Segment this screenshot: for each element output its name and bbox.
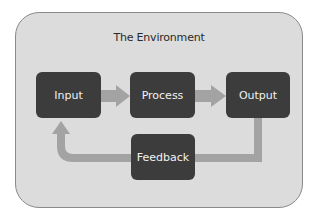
arrow-feedback-to-input [52,121,131,158]
diagram-canvas: The Environment Input Process Output [0,0,318,224]
node-output-label: Output [239,89,277,102]
arrow-input-to-process [101,85,130,107]
arrow-process-to-output [195,85,226,107]
arrow-output-to-feedback [195,118,262,162]
node-input-label: Input [54,89,82,102]
node-feedback-label: Feedback [137,151,189,164]
node-input: Input [36,72,101,118]
node-process: Process [130,72,195,118]
node-process-label: Process [142,89,184,102]
node-output: Output [226,72,290,118]
node-feedback: Feedback [131,134,195,180]
